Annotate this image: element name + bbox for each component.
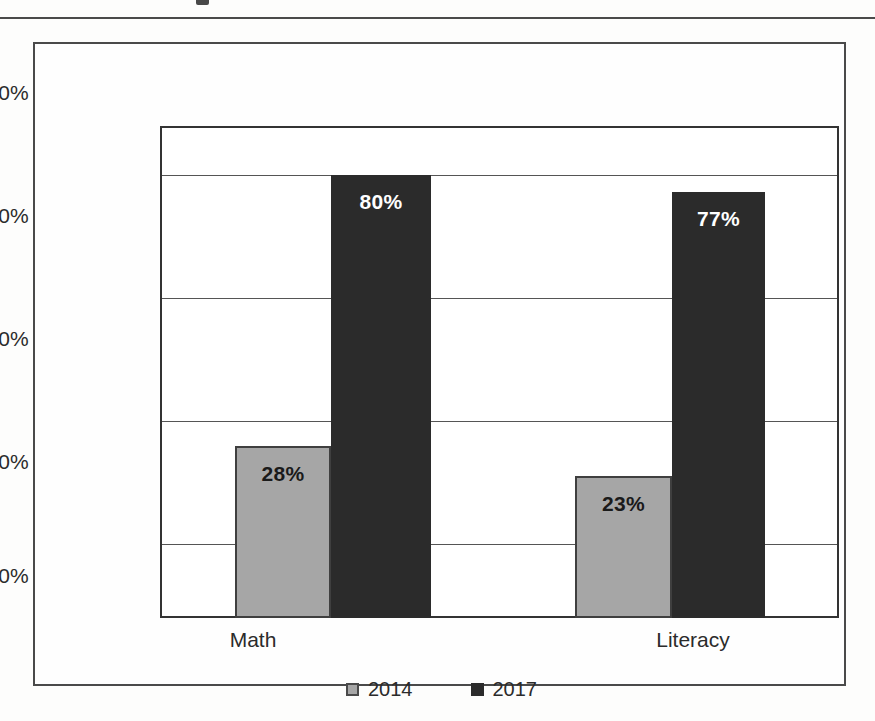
chart-legend: 2014 2017 [35, 678, 848, 701]
y-tick-label-40: 40% [0, 327, 29, 351]
chart-frame: 80% 60% 40% 20% 0% 28% 80% 23% 77% Math … [33, 42, 846, 686]
y-tick-label-80: 80% [0, 81, 29, 105]
bar-value-literacy-2017: 77% [673, 207, 764, 231]
legend-item-2017[interactable]: 2017 [471, 678, 538, 701]
legend-label-2014: 2014 [368, 678, 413, 701]
category-label-math: Math [143, 628, 363, 652]
plot-area: 28% 80% 23% 77% [160, 126, 839, 618]
legend-item-2014[interactable]: 2014 [346, 678, 413, 701]
bar-value-math-2014: 28% [237, 462, 329, 486]
y-tick-label-0: 0% [0, 564, 29, 588]
bar-literacy-2017[interactable]: 77% [672, 192, 765, 618]
legend-label-2017: 2017 [493, 678, 538, 701]
y-tick-label-20: 20% [0, 450, 29, 474]
bar-value-literacy-2014: 23% [577, 492, 670, 516]
bar-literacy-2014[interactable]: 23% [575, 476, 672, 618]
bar-value-math-2017: 80% [332, 190, 430, 214]
category-label-literacy: Literacy [583, 628, 803, 652]
bar-math-2014[interactable]: 28% [235, 446, 331, 618]
y-tick-label-60: 60% [0, 204, 29, 228]
cut-off-title-descender [196, 0, 209, 5]
bar-math-2017[interactable]: 80% [331, 175, 431, 618]
dark-square-swatch-icon [471, 683, 484, 696]
gray-square-swatch-icon [346, 683, 359, 696]
horizontal-rule [0, 17, 875, 19]
gridline-80 [162, 175, 837, 176]
